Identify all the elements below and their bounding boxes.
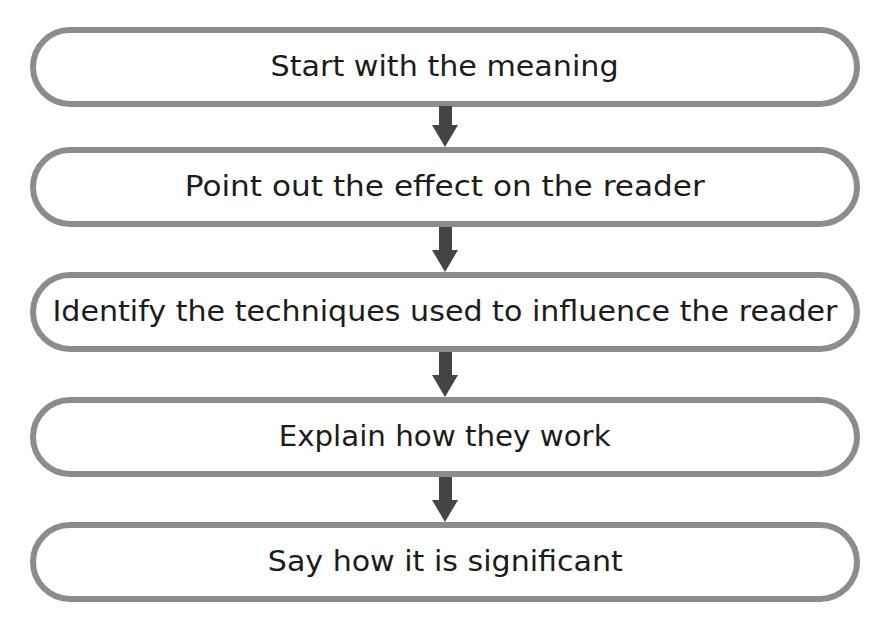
step-label: Explain how they work: [279, 423, 611, 451]
step-start-with-meaning: Start with the meaning: [30, 27, 860, 107]
down-arrow-icon: [432, 477, 458, 522]
down-arrow-icon: [432, 106, 458, 147]
step-point-out-effect: Point out the effect on the reader: [30, 147, 860, 227]
step-identify-techniques: Identify the techniques used to influenc…: [30, 272, 860, 352]
down-arrow-icon: [432, 352, 458, 397]
step-label: Start with the meaning: [271, 53, 619, 81]
step-label: Point out the effect on the reader: [185, 173, 705, 201]
down-arrow-icon: [432, 227, 458, 272]
step-explain-how-they-work: Explain how they work: [30, 397, 860, 477]
step-say-significance: Say how it is significant: [30, 522, 860, 602]
step-label: Say how it is significant: [268, 548, 623, 576]
step-label: Identify the techniques used to influenc…: [52, 298, 837, 326]
